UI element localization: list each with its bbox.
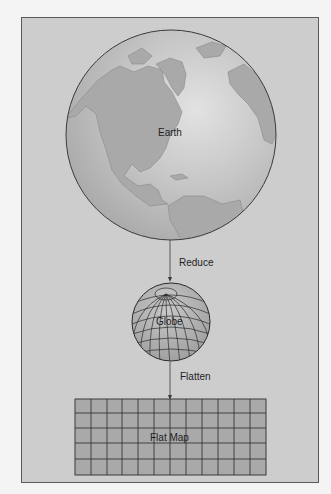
flatten-label: Flatten <box>180 371 211 382</box>
flatten-arrow-icon <box>168 362 172 400</box>
globe-label: Globe <box>156 316 183 327</box>
flat-map-label: Flat Map <box>150 432 189 443</box>
earth-label: Earth <box>158 127 182 138</box>
earth-sphere <box>66 30 280 250</box>
reduce-arrow-icon <box>168 240 172 282</box>
diagram-canvas <box>0 0 331 494</box>
reduce-label: Reduce <box>179 257 213 268</box>
